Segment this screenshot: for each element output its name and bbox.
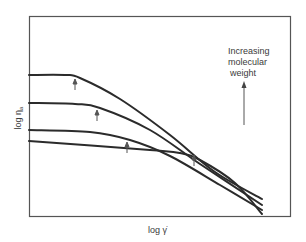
marker-arrowhead-icon bbox=[125, 142, 129, 147]
y-axis-label: log η bbox=[13, 110, 23, 130]
marker-arrowhead-icon bbox=[95, 110, 99, 115]
annotation-line-3: weight bbox=[229, 68, 257, 78]
annotation: Increasing molecular weight bbox=[228, 46, 270, 125]
y-axis-label-subscript: a bbox=[18, 106, 24, 110]
viscosity-shear-rate-chart: Increasing molecular weight log γ̇ log η… bbox=[0, 0, 306, 242]
annotation-line-2: molecular bbox=[228, 57, 267, 67]
x-axis-label: log γ̇ bbox=[148, 225, 168, 235]
curve-3 bbox=[29, 130, 262, 210]
curve-4 bbox=[29, 141, 262, 214]
curves bbox=[29, 75, 262, 214]
annotation-line-1: Increasing bbox=[228, 46, 270, 56]
curve-1 bbox=[29, 75, 262, 199]
y-axis-label-group: log ηa bbox=[13, 106, 24, 130]
marker-arrowhead-icon bbox=[73, 79, 77, 84]
arrowhead-icon bbox=[242, 81, 247, 88]
svg-text:log ηa: log ηa bbox=[13, 106, 24, 130]
